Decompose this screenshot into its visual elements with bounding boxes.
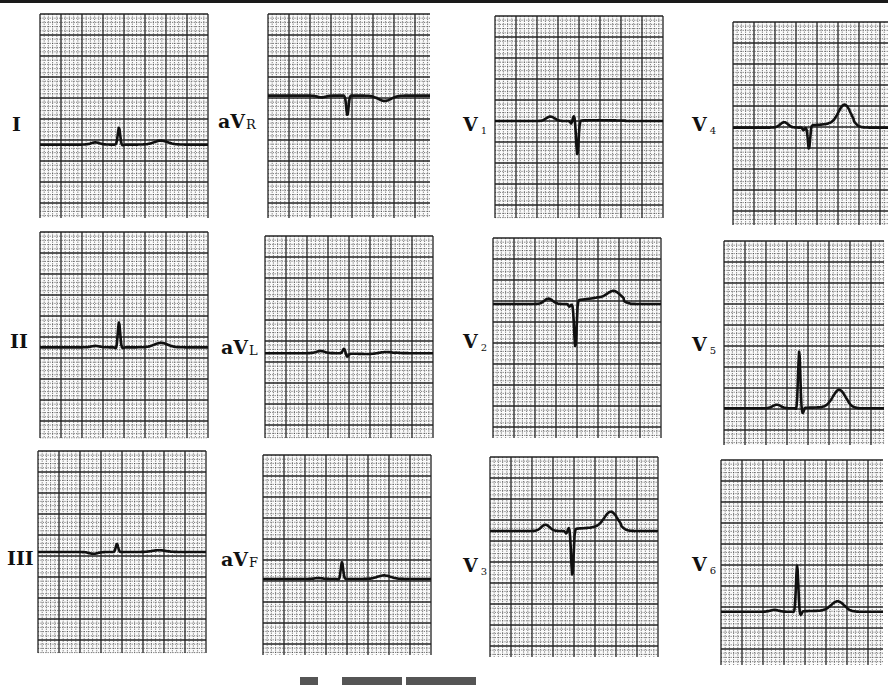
- ecg-strip-aVL: [265, 236, 433, 438]
- ecg-strip-V1: [495, 16, 663, 218]
- lead-label-V2: V2: [463, 332, 487, 353]
- lead-sub: 4: [710, 125, 716, 136]
- ecg-strip-V3: [490, 457, 658, 657]
- ecg-strip-V6: [721, 460, 883, 665]
- lead-label-aVF: aVF: [221, 550, 258, 569]
- lead-sub: 1: [481, 125, 487, 136]
- ecg-strip-V4: [733, 22, 888, 225]
- ecg-strip-II: [40, 232, 208, 438]
- lead-name: V: [692, 553, 707, 575]
- lead-name: III: [7, 547, 34, 569]
- lead-label-V6: V6: [692, 555, 716, 576]
- lead-label-V3: V3: [463, 556, 487, 577]
- lead-name: V: [463, 554, 478, 576]
- ecg-strip-V5: [724, 241, 884, 445]
- ecg-paper: [721, 460, 883, 665]
- lead-label-III: III: [7, 549, 35, 568]
- caption-fragment: [342, 677, 402, 685]
- ecg-strip-aVR: [268, 14, 430, 218]
- lead-label-V1: V1: [463, 115, 487, 136]
- lead-name: aV: [221, 548, 248, 570]
- lead-name: V: [463, 330, 478, 352]
- lead-name: aV: [218, 110, 245, 132]
- lead-name: aV: [221, 336, 248, 358]
- lead-label-aVL: aVL: [221, 338, 258, 357]
- lead-label-I: I: [12, 115, 22, 134]
- ecg-strip-I: [40, 14, 208, 218]
- lead-sub: 5: [710, 345, 716, 356]
- lead-sub: 6: [710, 565, 716, 576]
- caption-fragment: [300, 677, 318, 685]
- lead-sub: 2: [481, 342, 487, 353]
- lead-sub: L: [249, 343, 258, 358]
- ecg-strip-V2: [493, 238, 661, 438]
- lead-name: V: [463, 113, 478, 135]
- lead-label-II: II: [10, 332, 29, 351]
- top-border: [0, 0, 888, 3]
- caption-fragment: [406, 677, 476, 685]
- lead-name: V: [692, 333, 707, 355]
- lead-name: I: [12, 113, 21, 135]
- lead-label-V4: V4: [692, 115, 716, 136]
- lead-sub: R: [246, 117, 256, 132]
- lead-label-V5: V5: [692, 335, 716, 356]
- lead-sub: 3: [481, 566, 487, 577]
- ecg-strip-III: [38, 451, 206, 653]
- ecg-paper: [268, 14, 430, 218]
- lead-name: II: [10, 330, 28, 352]
- ecg-strip-aVF: [263, 455, 431, 655]
- figure-caption-cropped: [300, 677, 600, 685]
- lead-sub: F: [249, 555, 258, 570]
- lead-name: V: [692, 113, 707, 135]
- lead-label-aVR: aVR: [218, 112, 256, 131]
- ecg-paper: [733, 22, 888, 225]
